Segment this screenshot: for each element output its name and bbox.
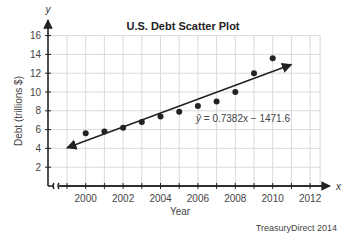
x-tick-label: 2002	[112, 193, 135, 204]
y-tick-label: 6	[35, 124, 41, 135]
data-point	[214, 98, 220, 104]
data-point	[139, 119, 145, 125]
grid-lines	[48, 36, 320, 186]
data-point	[195, 103, 201, 109]
data-point	[158, 113, 164, 119]
x-tick-label: 2000	[75, 193, 98, 204]
data-point	[83, 130, 89, 136]
data-point	[270, 55, 276, 61]
y-tick-label: 4	[35, 143, 41, 154]
source-note: TreasuryDirect 2014	[256, 223, 337, 233]
equation-body: = 0.7382x − 1471.6	[201, 113, 290, 124]
x-tick-label: 2008	[224, 193, 247, 204]
x-tick-label: 2006	[187, 193, 210, 204]
scatter-chart: 2468101214162000200220042006200820102012…	[0, 0, 356, 240]
y-tick-label: 12	[30, 68, 42, 79]
x-tick-label: 2004	[149, 193, 172, 204]
x-axis-label: Year	[170, 206, 191, 217]
x-axis-variable: x	[335, 181, 342, 192]
y-tick-label: 2	[35, 162, 41, 173]
y-axis-variable: y	[45, 4, 52, 15]
y-axis-label: Debt (trillions $)	[13, 76, 24, 146]
y-tick-label: 16	[30, 30, 42, 41]
regression-equation: ŷ = 0.7382x − 1471.6	[195, 113, 290, 124]
y-tick-label: 14	[30, 49, 42, 60]
data-point	[251, 70, 257, 76]
data-point	[101, 128, 107, 134]
data-point	[176, 109, 182, 115]
y-tick-label: 8	[35, 105, 41, 116]
y-tick-label: 10	[30, 87, 42, 98]
x-tick-label: 2012	[299, 193, 322, 204]
data-point	[232, 89, 238, 95]
chart-title: U.S. Debt Scatter Plot	[126, 20, 239, 32]
x-tick-label: 2010	[262, 193, 285, 204]
data-point	[120, 125, 126, 131]
